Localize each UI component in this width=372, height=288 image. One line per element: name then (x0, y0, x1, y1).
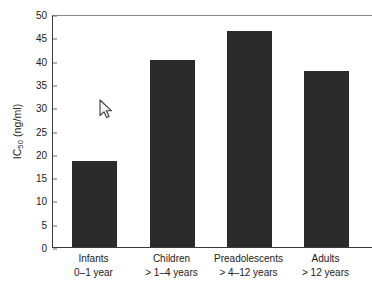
bar-infants (72, 161, 117, 247)
category-name: Adults (312, 253, 340, 264)
y-tick-mark (53, 202, 57, 203)
y-tick-label: 15 (36, 174, 47, 184)
y-tick-label: 5 (41, 221, 47, 231)
category-name: Children (153, 253, 190, 264)
y-tick-label: 50 (36, 11, 47, 21)
y-tick-mark (53, 179, 57, 180)
y-tick-label: 45 (36, 34, 47, 44)
category-name: Infants (78, 253, 108, 264)
y-axis-title-subscript: 50 (16, 140, 25, 149)
y-tick-mark (53, 109, 57, 110)
y-tick-label: 35 (36, 81, 47, 91)
y-tick-mark (53, 225, 57, 226)
bar-preadolescents (227, 31, 272, 247)
category-age-range: > 12 years (266, 266, 372, 280)
plot-area: 05101520253035404550 (52, 15, 372, 248)
y-tick-label: 20 (36, 151, 47, 161)
bar-chart-figure: IC50 (ng/ml) 05101520253035404550 Infant… (0, 0, 372, 288)
y-tick-label: 10 (36, 197, 47, 207)
y-tick-mark (53, 16, 57, 17)
y-tick-mark (53, 85, 57, 86)
y-tick-mark (53, 62, 57, 63)
y-axis-title: IC50 (ng/ml) (8, 15, 26, 248)
bar-adults (304, 71, 349, 247)
y-tick-label: 40 (36, 58, 47, 68)
y-tick-label: 30 (36, 104, 47, 114)
y-tick-mark (53, 132, 57, 133)
y-tick-label: 25 (36, 128, 47, 138)
y-tick-mark (53, 155, 57, 156)
y-tick-mark (53, 39, 57, 40)
y-axis-title-unit: (ng/ml) (11, 104, 23, 140)
category-label: Adults> 12 years (266, 252, 372, 279)
y-tick-mark (53, 249, 57, 250)
y-axis-title-base: IC (11, 149, 23, 160)
bar-children (150, 60, 195, 247)
